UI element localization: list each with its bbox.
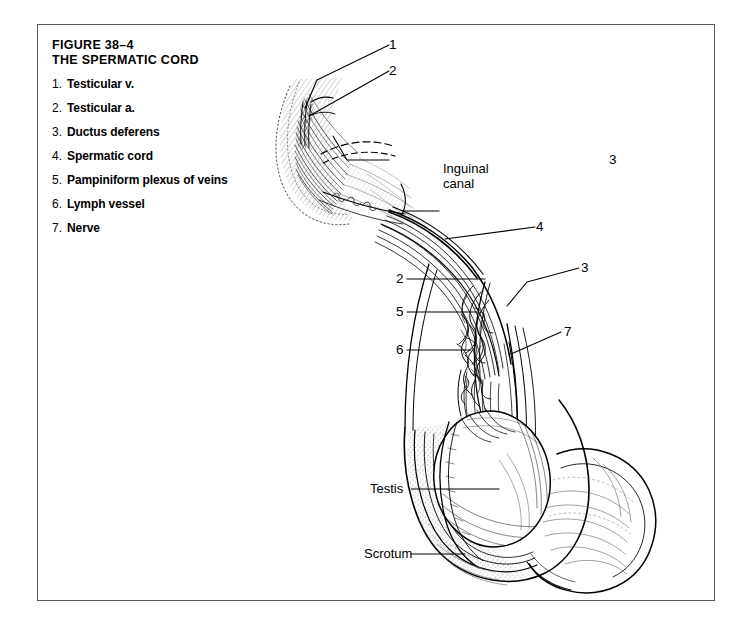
- label-scrotum: Scrotum: [364, 546, 412, 561]
- label-testis: Testis: [370, 481, 403, 496]
- label-inguinal-canal: Inguinal canal: [443, 161, 489, 191]
- callout-1: 1: [389, 37, 397, 52]
- spermatic-cord-illustration: [37, 24, 715, 601]
- callout-4: 4: [536, 219, 544, 234]
- callout-2-top: 2: [389, 63, 397, 78]
- illustration-linework: [276, 45, 656, 594]
- scrotum-and-testis: [397, 400, 656, 594]
- spermatic-cord: [327, 164, 536, 450]
- callout-6: 6: [396, 342, 404, 357]
- label-inguinal-canal-line1: Inguinal: [443, 161, 489, 176]
- callout-5: 5: [396, 304, 404, 319]
- callout-3-mid: 3: [581, 260, 589, 275]
- callout-3-top: 3: [609, 152, 617, 167]
- callout-2-mid: 2: [396, 271, 404, 286]
- callout-7: 7: [564, 324, 572, 339]
- figure-root: FIGURE 38–4 THE SPERMATIC CORD 1. Testic…: [0, 0, 744, 621]
- label-inguinal-canal-line2: canal: [443, 176, 489, 191]
